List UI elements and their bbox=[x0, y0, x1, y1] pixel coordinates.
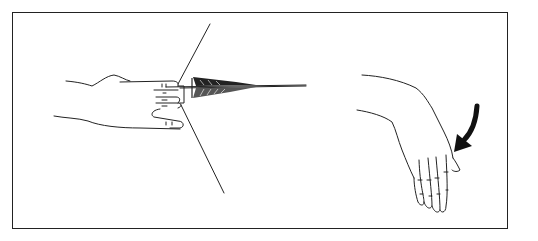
drawing-hand bbox=[54, 75, 184, 129]
bowstring bbox=[178, 24, 224, 193]
illustration bbox=[0, 0, 538, 241]
released-hand bbox=[357, 75, 460, 212]
arrow-down-left-icon bbox=[454, 106, 477, 152]
